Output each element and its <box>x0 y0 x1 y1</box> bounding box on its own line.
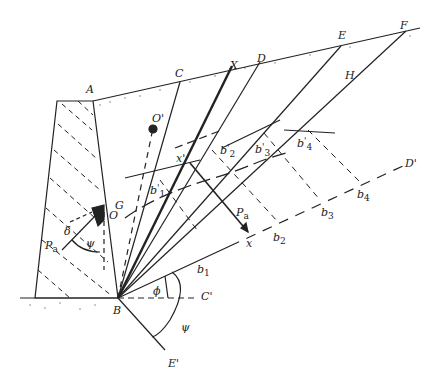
label-A: A <box>86 84 94 95</box>
label-O: O <box>109 210 118 221</box>
line-BF <box>118 31 406 298</box>
label-C-prime: C' <box>201 291 212 302</box>
label-psi-base: ψ <box>181 322 190 333</box>
line-G-xprime <box>125 160 200 178</box>
label-b1-prime: b'1 <box>150 185 165 196</box>
label-X: X <box>230 60 238 71</box>
line-BEprime <box>118 298 165 350</box>
label-b4-prime: b'4 <box>297 138 312 149</box>
label-delta: δ <box>64 226 71 237</box>
force-point-O <box>92 205 104 226</box>
label-x-prime: x' <box>176 153 185 164</box>
label-D: D <box>257 53 266 64</box>
label-O-prime: O' <box>152 113 164 124</box>
diagram-drawing <box>0 0 438 385</box>
dash-b1 <box>160 180 197 230</box>
label-E: E <box>338 30 346 41</box>
label-b3-prime: b'3 <box>255 144 270 155</box>
label-Pa-wall: Pa <box>45 240 58 251</box>
label-E-prime: E' <box>168 358 179 369</box>
label-Pa-diagram: Pa <box>236 207 249 218</box>
pa-arrow <box>190 163 248 232</box>
label-b1: b1 <box>197 264 210 275</box>
line-to-H <box>222 120 280 148</box>
label-D-prime: D' <box>405 158 417 169</box>
label-H: H <box>345 70 355 81</box>
label-C: C <box>175 68 183 79</box>
line-BOprime <box>118 128 153 298</box>
label-b2: b2 <box>273 232 286 243</box>
label-phi: ϕ <box>153 286 161 297</box>
wall-hatching <box>38 101 112 298</box>
O-prime-point <box>149 125 157 133</box>
retaining-wall <box>35 101 118 298</box>
label-B: B <box>113 305 121 316</box>
label-F: F <box>400 20 408 31</box>
line-BD <box>118 62 260 298</box>
culmann-diagram: A C X D E F H O' G O B C' D' E' x x' b1 … <box>0 0 438 385</box>
label-psi-wall: ψ <box>86 238 95 249</box>
label-b4: b4 <box>357 189 370 200</box>
label-b3: b3 <box>321 207 334 218</box>
label-x: x <box>246 238 252 249</box>
label-b2-prime: b'2 <box>220 145 235 156</box>
line-BDprime <box>230 165 405 246</box>
line-phi-segment <box>118 246 230 298</box>
